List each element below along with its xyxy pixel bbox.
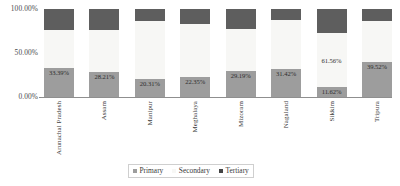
bar-segment-secondary[interactable]: [135, 21, 165, 79]
legend-item-label: Secondary: [179, 166, 210, 175]
bar-column[interactable]: 17.11%22.35%: [180, 9, 210, 97]
bar-value-label-primary: 33.39%: [44, 69, 74, 76]
plot-area: 23.38%33.39%23.74%28.21%13.27%20.31%17.1…: [44, 9, 392, 97]
bar-value-label-primary: 22.35%: [180, 78, 210, 85]
bar-segment-tertiary[interactable]: 13.27%: [135, 9, 165, 21]
x-axis-label-slot: Meghalaya: [180, 99, 210, 157]
bar-segment-tertiary[interactable]: 12.18%: [271, 9, 301, 20]
legend-item[interactable]: Primary: [133, 166, 163, 175]
bar-value-label-primary: 29.19%: [226, 72, 256, 79]
bar-value-label-primary: 28.21%: [89, 73, 119, 80]
chart-legend: PrimarySecondaryTertiary: [128, 164, 254, 178]
legend-item-label: Tertiary: [226, 166, 249, 175]
bar-segment-primary[interactable]: 29.19%: [226, 71, 256, 97]
legend-item[interactable]: Secondary: [172, 166, 210, 175]
bar-column[interactable]: 13.55%39.52%: [362, 9, 392, 97]
legend-item-label: Primary: [140, 166, 164, 175]
y-tick-label-100: 100.00%: [11, 5, 38, 13]
x-axis-category-labels: Arunachal PradeshAssamManipurMeghalayaMi…: [44, 99, 392, 157]
bar-segment-secondary[interactable]: [44, 30, 74, 68]
bar-column[interactable]: 12.18%31.42%: [271, 9, 301, 97]
bar-segment-secondary[interactable]: 61.56%: [317, 33, 347, 87]
bar-value-label-primary: 20.31%: [135, 80, 165, 87]
bar-segment-tertiary[interactable]: 23.74%: [89, 9, 119, 30]
bar-segment-primary[interactable]: 39.52%: [362, 62, 392, 97]
bar-column[interactable]: 13.27%20.31%: [135, 9, 165, 97]
bar-segment-secondary[interactable]: [362, 21, 392, 62]
legend-item[interactable]: Tertiary: [219, 166, 249, 175]
bar-segment-primary[interactable]: 28.21%: [89, 72, 119, 97]
bar-value-label-primary: 39.52%: [362, 63, 392, 70]
legend-swatch-icon: [172, 169, 176, 173]
y-tick-label-0: 0.00%: [18, 93, 38, 101]
bar-value-label-primary: 31.42%: [271, 70, 301, 77]
bar-segment-primary[interactable]: 11.62%: [317, 87, 347, 97]
x-axis-label-slot: Assam: [89, 99, 119, 157]
bar-segment-tertiary[interactable]: 13.55%: [362, 9, 392, 21]
x-axis-label-slot: Mizoram: [226, 99, 256, 157]
x-axis-category-label: Manipur: [146, 101, 154, 125]
x-axis-label-slot: Nagaland: [271, 99, 301, 157]
bar-segment-primary[interactable]: 20.31%: [135, 79, 165, 97]
bar-value-label-secondary: 61.56%: [317, 56, 347, 63]
x-axis-category-label: Arunachal Pradesh: [55, 101, 63, 155]
bar-segment-tertiary[interactable]: 23.38%: [44, 9, 74, 30]
bar-group: 23.38%33.39%23.74%28.21%13.27%20.31%17.1…: [44, 9, 392, 97]
bar-value-label-primary: 11.62%: [317, 88, 347, 95]
x-axis-label-slot: Tripura: [362, 99, 392, 157]
bar-column[interactable]: 23.21%29.19%: [226, 9, 256, 97]
y-axis: 100.00% 50.00% 0.00%: [0, 9, 42, 97]
x-axis-label-slot: Manipur: [135, 99, 165, 157]
bar-column[interactable]: 23.74%28.21%: [89, 9, 119, 97]
bar-segment-tertiary[interactable]: 23.21%: [226, 9, 256, 29]
bar-segment-tertiary[interactable]: 17.11%: [180, 9, 210, 24]
bar-segment-tertiary[interactable]: [317, 9, 347, 33]
bar-segment-secondary[interactable]: [226, 29, 256, 71]
bar-column[interactable]: 61.56%11.62%: [317, 9, 347, 97]
y-tick-label-50: 50.00%: [15, 49, 38, 57]
x-axis-category-label: Assam: [100, 101, 108, 120]
legend-swatch-icon: [133, 169, 137, 173]
x-axis-category-label: Tripura: [373, 101, 381, 122]
stacked-bar-chart: 100.00% 50.00% 0.00% 23.38%33.39%23.74%2…: [0, 0, 400, 186]
x-axis-category-label: Sikkim: [328, 101, 336, 122]
bar-column[interactable]: 23.38%33.39%: [44, 9, 74, 97]
bar-segment-primary[interactable]: 33.39%: [44, 68, 74, 97]
x-axis-category-label: Mizoram: [237, 101, 245, 127]
bar-segment-secondary[interactable]: [271, 20, 301, 70]
x-axis-category-label: Meghalaya: [191, 101, 199, 133]
x-axis-label-slot: Arunachal Pradesh: [44, 99, 74, 157]
bar-segment-primary[interactable]: 22.35%: [180, 77, 210, 97]
x-axis-line: [41, 97, 392, 98]
legend-swatch-icon: [219, 169, 223, 173]
bar-segment-secondary[interactable]: [180, 24, 210, 77]
bar-segment-primary[interactable]: 31.42%: [271, 69, 301, 97]
x-axis-category-label: Nagaland: [282, 101, 290, 128]
bar-segment-secondary[interactable]: [89, 30, 119, 72]
x-axis-label-slot: Sikkim: [317, 99, 347, 157]
